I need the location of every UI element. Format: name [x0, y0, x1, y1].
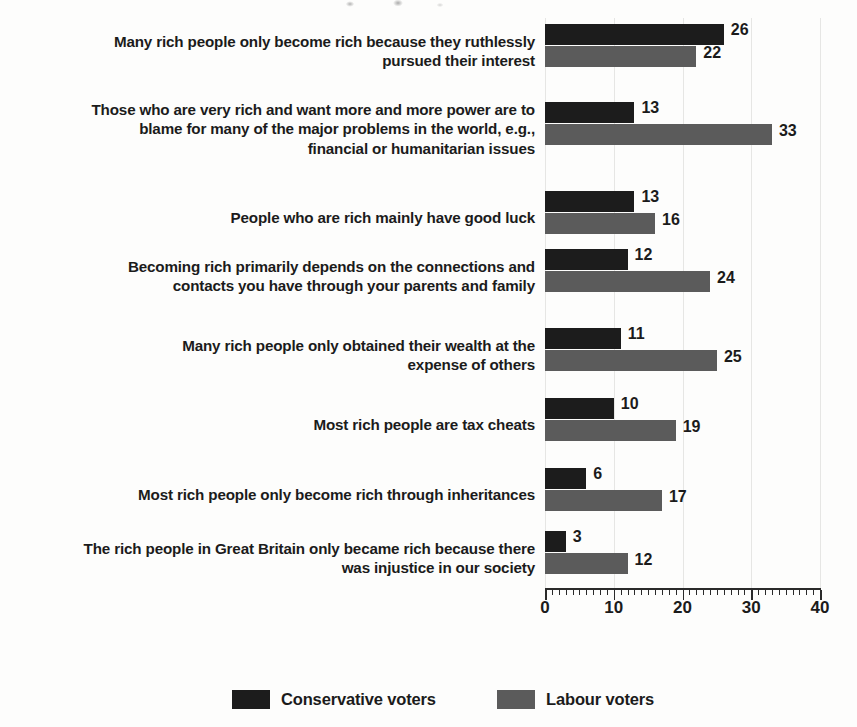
category-label: Many rich people only obtained their wea… — [15, 336, 535, 375]
chart-row: The rich people in Great Britain only be… — [0, 525, 857, 591]
bar-value-label: 12 — [635, 551, 653, 569]
category-label: Those who are very rich and want more an… — [15, 100, 535, 159]
legend-swatch-icon — [232, 690, 270, 709]
bar-value-label: 10 — [621, 395, 639, 413]
x-tick-label-10: 10 — [604, 598, 623, 618]
chart-row: Many rich people only become rich becaus… — [0, 18, 857, 84]
legend-item-conservative[interactable]: Conservative voters — [232, 690, 436, 709]
bar-conservative — [545, 398, 614, 419]
axis-minor-tick-28 — [738, 590, 739, 595]
axis-minor-tick-32 — [765, 590, 766, 595]
axis-minor-tick-9 — [607, 590, 608, 595]
bar-conservative — [545, 24, 724, 45]
axis-minor-tick-17 — [662, 590, 663, 595]
axis-minor-tick-19 — [676, 590, 677, 595]
chart-row: People who are rich mainly have good luc… — [0, 185, 857, 251]
axis-minor-tick-3 — [566, 590, 567, 595]
axis-minor-tick-25 — [717, 590, 718, 595]
axis-minor-tick-26 — [724, 590, 725, 595]
bar-conservative — [545, 531, 566, 552]
category-label: People who are rich mainly have good luc… — [15, 208, 535, 228]
chart-row: Those who are very rich and want more an… — [0, 96, 857, 162]
bar-conservative — [545, 102, 634, 123]
bar-labour — [545, 271, 710, 292]
bar-value-label: 26 — [731, 21, 749, 39]
axis-minor-tick-7 — [593, 590, 594, 595]
axis-minor-tick-29 — [744, 590, 745, 595]
axis-minor-tick-33 — [772, 590, 773, 595]
legend-swatch-icon — [497, 690, 535, 709]
axis-minor-tick-15 — [648, 590, 649, 595]
axis-minor-tick-4 — [573, 590, 574, 595]
bar-labour — [545, 553, 628, 574]
legend-item-labour[interactable]: Labour voters — [497, 690, 654, 709]
axis-minor-tick-6 — [586, 590, 587, 595]
bar-value-label: 19 — [683, 418, 701, 436]
axis-minor-tick-5 — [579, 590, 580, 595]
bar-value-label: 11 — [628, 325, 645, 343]
axis-minor-tick-35 — [786, 590, 787, 595]
x-tick-label-20: 20 — [673, 598, 692, 618]
chart-row: Most rich people are tax cheats1019 — [0, 392, 857, 458]
axis-minor-tick-31 — [758, 590, 759, 595]
axis-minor-tick-23 — [703, 590, 704, 595]
bar-value-label: 33 — [779, 122, 797, 140]
bar-labour — [545, 420, 676, 441]
axis-minor-tick-27 — [731, 590, 732, 595]
axis-minor-tick-36 — [793, 590, 794, 595]
category-label: Most rich people are tax cheats — [15, 415, 535, 435]
axis-minor-tick-22 — [696, 590, 697, 595]
axis-minor-tick-21 — [689, 590, 690, 595]
bar-value-label: 22 — [703, 44, 721, 62]
bar-conservative — [545, 191, 634, 212]
bar-value-label: 17 — [669, 488, 687, 506]
bar-value-label: 24 — [717, 269, 735, 287]
x-tick-label-40: 40 — [811, 598, 830, 618]
axis-minor-tick-14 — [641, 590, 642, 595]
bar-value-label: 25 — [724, 348, 742, 366]
bar-value-label: 12 — [635, 246, 653, 264]
x-tick-label-0: 0 — [540, 598, 549, 618]
chart-row: Many rich people only obtained their wea… — [0, 322, 857, 388]
axis-minor-tick-12 — [628, 590, 629, 595]
axis-minor-tick-38 — [806, 590, 807, 595]
bar-conservative — [545, 249, 628, 270]
bar-value-label: 16 — [662, 211, 680, 229]
bar-conservative — [545, 468, 586, 489]
axis-minor-tick-37 — [799, 590, 800, 595]
category-label: Most rich people only become rich throug… — [15, 485, 535, 505]
x-tick-label-30: 30 — [742, 598, 761, 618]
bar-labour — [545, 46, 696, 67]
category-label: Becoming rich primarily depends on the c… — [15, 257, 535, 296]
axis-minor-tick-16 — [655, 590, 656, 595]
axis-minor-tick-24 — [710, 590, 711, 595]
axis-minor-tick-13 — [634, 590, 635, 595]
bar-value-label: 6 — [593, 465, 602, 483]
bar-value-label: 13 — [641, 99, 659, 117]
bar-value-label: 3 — [573, 528, 582, 546]
category-label: Many rich people only become rich becaus… — [15, 32, 535, 71]
axis-minor-tick-2 — [559, 590, 560, 595]
bar-value-label: 13 — [641, 188, 659, 206]
chart-legend: Conservative votersLabour voters — [0, 690, 857, 716]
bar-conservative — [545, 328, 621, 349]
chart-row: Becoming rich primarily depends on the c… — [0, 243, 857, 309]
chart-page: Many rich people only become rich becaus… — [0, 0, 857, 727]
axis-minor-tick-1 — [552, 590, 553, 595]
bar-labour — [545, 350, 717, 371]
bar-labour — [545, 213, 655, 234]
axis-minor-tick-39 — [813, 590, 814, 595]
legend-label: Conservative voters — [281, 690, 436, 709]
axis-minor-tick-34 — [779, 590, 780, 595]
axis-minor-tick-8 — [600, 590, 601, 595]
bar-labour — [545, 124, 772, 145]
bar-rows: Many rich people only become rich becaus… — [0, 0, 857, 588]
chart-row: Most rich people only become rich throug… — [0, 462, 857, 528]
axis-minor-tick-11 — [621, 590, 622, 595]
bar-labour — [545, 490, 662, 511]
axis-minor-tick-18 — [669, 590, 670, 595]
legend-label: Labour voters — [546, 690, 654, 709]
category-label: The rich people in Great Britain only be… — [15, 539, 535, 578]
